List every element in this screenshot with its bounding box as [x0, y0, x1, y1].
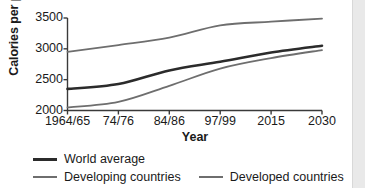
x-tick-label-group: 1964/6574/7684/8697/9920152030 — [0, 112, 365, 130]
x-tick-label: 1964/65 — [45, 114, 90, 128]
x-tick-label: 2030 — [308, 114, 336, 128]
legend-row-1: World average — [33, 150, 353, 168]
y-tick-label: 3000 — [19, 41, 63, 55]
legend-item[interactable]: Developed countries — [199, 170, 344, 184]
legend-label: Developing countries — [64, 170, 181, 184]
series-lines — [68, 19, 323, 108]
x-axis-title: Year — [67, 130, 323, 144]
legend-swatch-icon — [33, 158, 57, 161]
chart-legend: World average Developing countriesDevelo… — [33, 150, 353, 186]
legend-swatch-icon — [199, 176, 223, 179]
page-edge-strip — [352, 0, 365, 188]
x-tick-label: 97/99 — [205, 114, 236, 128]
series-line-world-average — [68, 46, 323, 89]
legend-item[interactable]: Developing countries — [33, 170, 181, 184]
legend-row-2: Developing countriesDeveloped countries — [33, 168, 353, 186]
legend-item[interactable]: World average — [33, 152, 145, 166]
series-line-developed-countries — [68, 19, 323, 52]
legend-label: World average — [64, 152, 145, 166]
x-tick-label: 84/86 — [154, 114, 185, 128]
chart-figure: Calories per person 3500300025002000 196… — [0, 0, 365, 188]
x-tick-label: 2015 — [257, 114, 285, 128]
y-tick-label: 2500 — [19, 72, 63, 86]
series-line-developing-countries — [68, 50, 323, 107]
x-tick-label: 74/76 — [103, 114, 134, 128]
legend-swatch-icon — [33, 176, 57, 179]
y-tick-label: 3500 — [19, 10, 63, 24]
legend-label: Developed countries — [230, 170, 344, 184]
y-tick-label-group: 3500300025002000 — [18, 0, 63, 130]
